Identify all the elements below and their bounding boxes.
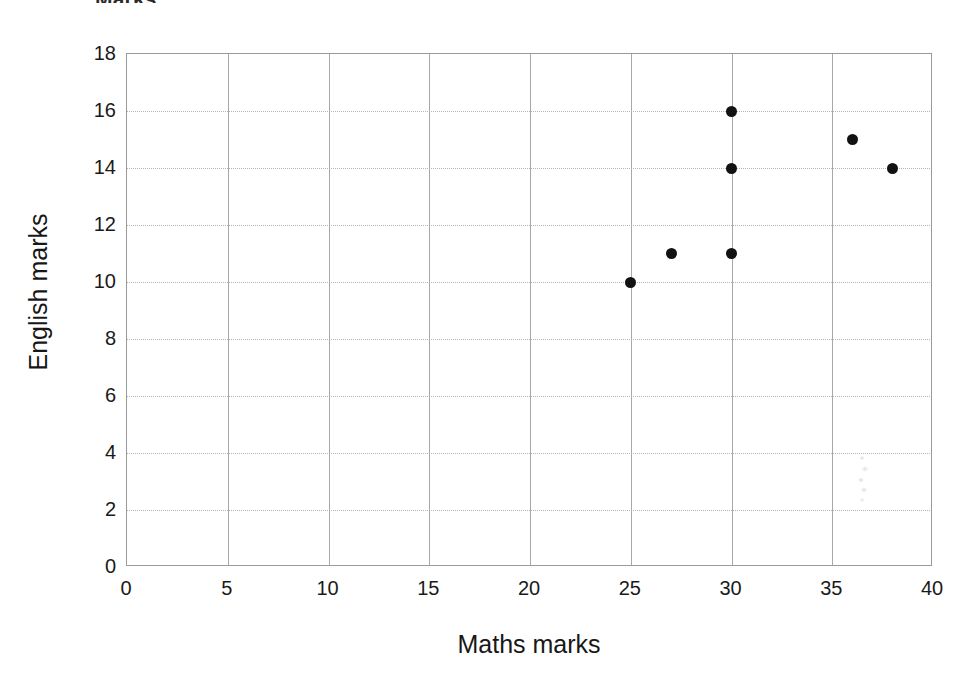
- x-tick-label: 40: [902, 578, 962, 598]
- y-tick-label: 14: [76, 157, 116, 177]
- cropped-title-text: Marks: [95, 0, 225, 3]
- x-tick-label: 30: [701, 578, 761, 598]
- x-tick-label: 35: [801, 578, 861, 598]
- scatter-plot-figure: Marks 024681012141618 0510152025303540 E…: [0, 0, 970, 688]
- data-point: [726, 106, 737, 117]
- data-point: [625, 277, 636, 288]
- y-tick-label: 2: [76, 499, 116, 519]
- x-tick-label: 5: [197, 578, 257, 598]
- y-tick-label: 18: [76, 43, 116, 63]
- y-axis-tick-labels: 024681012141618: [64, 53, 116, 566]
- data-point: [887, 163, 898, 174]
- x-tick-label: 10: [298, 578, 358, 598]
- x-axis-tick-labels: 0510152025303540: [126, 578, 932, 604]
- x-tick-label: 0: [96, 578, 156, 598]
- x-tick-label: 15: [398, 578, 458, 598]
- data-point: [726, 163, 737, 174]
- data-point: [666, 248, 677, 259]
- y-tick-label: 10: [76, 271, 116, 291]
- y-tick-label: 0: [76, 556, 116, 576]
- y-axis-title: English marks: [24, 192, 52, 392]
- x-tick-label: 25: [600, 578, 660, 598]
- y-tick-label: 16: [76, 100, 116, 120]
- y-tick-label: 4: [76, 442, 116, 462]
- y-tick-label: 8: [76, 328, 116, 348]
- plot-area: [126, 53, 932, 566]
- x-tick-label: 20: [499, 578, 559, 598]
- x-axis-title: Maths marks: [126, 629, 932, 659]
- y-tick-label: 6: [76, 385, 116, 405]
- data-point: [726, 248, 737, 259]
- y-tick-label: 12: [76, 214, 116, 234]
- data-point: [847, 134, 858, 145]
- data-points: [127, 54, 931, 565]
